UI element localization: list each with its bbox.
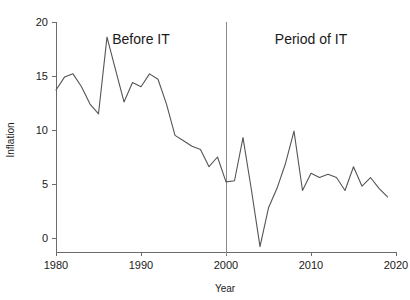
chart-annotation-label: Period of IT: [275, 31, 348, 47]
x-tick-label: 1980: [44, 259, 68, 271]
y-axis-ticks: 05101520: [36, 16, 56, 244]
y-tick-label: 0: [42, 232, 48, 244]
x-tick-label: 2020: [384, 259, 408, 271]
x-tick-label: 1990: [129, 259, 153, 271]
x-tick-label: 2010: [299, 259, 323, 271]
x-tick-label: 2000: [214, 259, 238, 271]
y-tick-label: 5: [42, 178, 48, 190]
y-tick-label: 10: [36, 124, 48, 136]
y-tick-label: 15: [36, 70, 48, 82]
chart-canvas: 05101520 19801990200020102020 Before ITP…: [0, 0, 410, 300]
x-axis-title: Year: [215, 283, 236, 294]
y-tick-label: 20: [36, 16, 48, 28]
inflation-series-line: [56, 37, 388, 247]
inflation-line-chart: 05101520 19801990200020102020 Before ITP…: [0, 0, 410, 300]
y-axis-title: Inflation: [5, 122, 16, 157]
chart-annotation-label: Before IT: [112, 31, 170, 47]
chart-annotations: Before ITPeriod of IT: [112, 31, 347, 47]
